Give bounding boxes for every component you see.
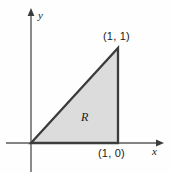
- y-axis-label: y: [38, 9, 43, 21]
- triangle-region-figure: (1, 1) (1, 0) y x R: [0, 0, 170, 174]
- vertex-label-1-1: (1, 1): [103, 30, 130, 42]
- region-r-triangle: [31, 48, 118, 143]
- vertex-label-1-0: (1, 0): [98, 147, 125, 159]
- x-axis-arrow-icon: [156, 140, 164, 147]
- region-label-r: R: [81, 110, 88, 125]
- x-axis-label: x: [152, 145, 157, 157]
- y-axis-arrow-icon: [28, 8, 35, 16]
- figure-canvas: [0, 0, 170, 174]
